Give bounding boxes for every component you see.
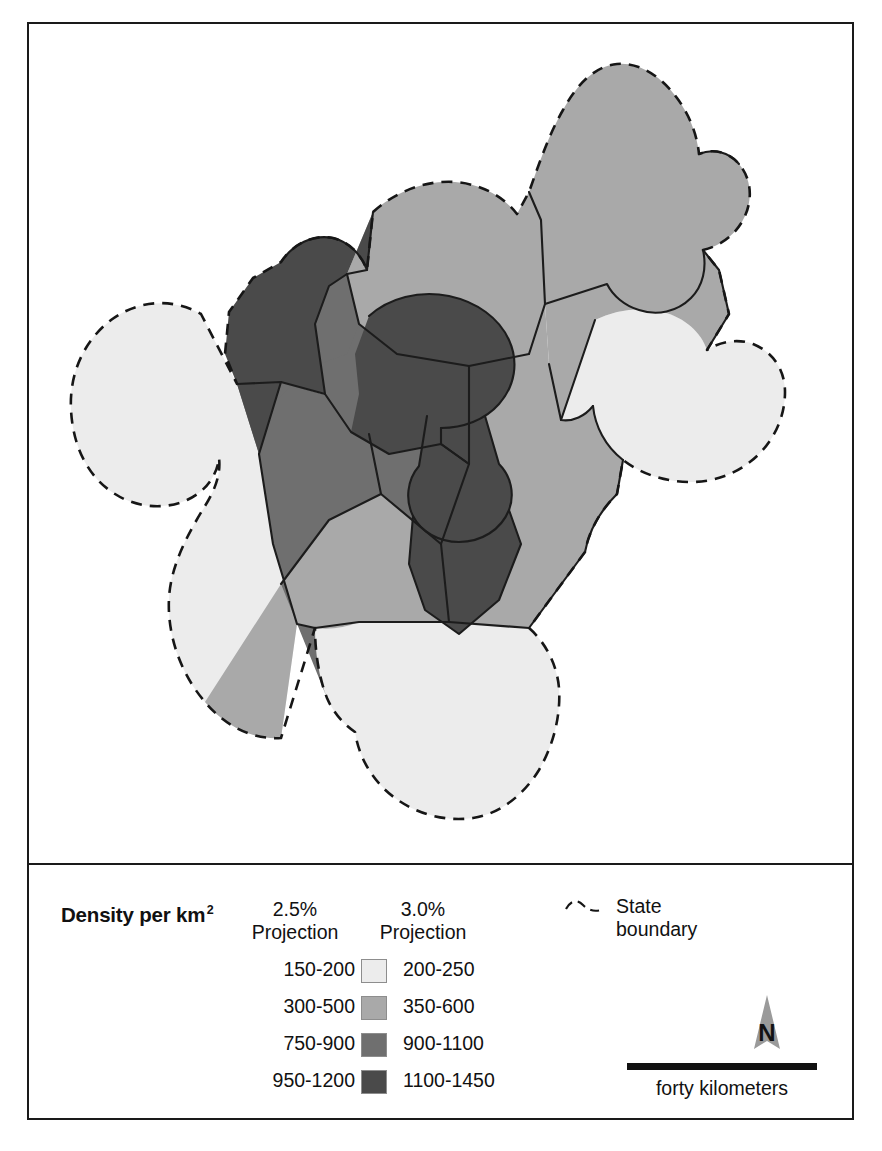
state-boundary-key-text: State boundary <box>616 895 697 941</box>
legend-swatch <box>361 996 387 1020</box>
legend-swatch <box>361 1033 387 1057</box>
legend-row[interactable]: 150-200 200-250 <box>29 955 852 988</box>
column-header-percent: 2.5% <box>235 898 355 921</box>
scale-bar-label: forty kilometers <box>599 1077 845 1100</box>
north-arrow: N <box>741 993 793 1051</box>
map-panel <box>29 24 852 863</box>
legend-value-right: 350-600 <box>403 992 475 1020</box>
legend-value-left: 150-200 <box>195 955 355 983</box>
north-arrow-letter: N <box>741 1019 793 1047</box>
legend-value-right: 900-1100 <box>403 1029 484 1057</box>
legend-value-left: 950-1200 <box>195 1066 355 1094</box>
legend-row[interactable]: 300-500 350-600 <box>29 992 852 1025</box>
scale-bar <box>627 1063 817 1070</box>
legend-swatch <box>361 1070 387 1094</box>
legend-value-right: 200-250 <box>403 955 475 983</box>
legend-title-superscript: 2 <box>207 903 214 917</box>
state-boundary-key-line1: State <box>616 895 697 918</box>
map-figure: Density per km2 2.5% Projection 3.0% Pro… <box>27 22 854 1120</box>
choropleth-map[interactable] <box>29 24 852 863</box>
legend-title-text: Density per km <box>61 903 205 926</box>
column-header-word: Projection <box>235 921 355 944</box>
column-header-projection-3-0: 3.0% Projection <box>363 898 483 943</box>
state-boundary-key: State boundary <box>564 895 794 955</box>
legend-swatch <box>361 959 387 983</box>
column-header-word: Projection <box>363 921 483 944</box>
legend-value-left: 750-900 <box>195 1029 355 1057</box>
legend-title: Density per km2 <box>61 903 213 927</box>
column-header-percent: 3.0% <box>363 898 483 921</box>
column-header-projection-2-5: 2.5% Projection <box>235 898 355 943</box>
legend-value-right: 1100-1450 <box>403 1066 495 1094</box>
state-boundary-key-line2: boundary <box>616 918 697 941</box>
legend-panel: Density per km2 2.5% Projection 3.0% Pro… <box>29 865 852 1118</box>
state-boundary-icon <box>564 897 604 919</box>
legend-value-left: 300-500 <box>195 992 355 1020</box>
legend-row[interactable]: 750-900 900-1100 <box>29 1029 852 1062</box>
